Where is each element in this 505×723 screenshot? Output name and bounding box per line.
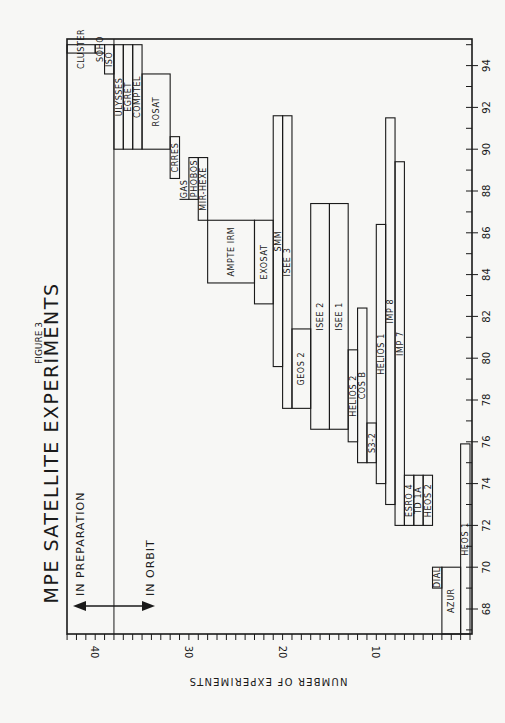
bar-label: AMPTE IRM	[227, 227, 236, 277]
bar-isee-2: ISEE 2	[311, 204, 330, 430]
bar-ulysses: ULYSSES	[114, 45, 124, 150]
bar-geos-2: GEOS 2	[292, 329, 311, 408]
bar-label: EGRET	[124, 82, 133, 112]
bar-imp-8: IMP 8	[386, 118, 396, 505]
bar-label: DIAL	[433, 567, 442, 588]
year-tick-label: 72	[481, 519, 492, 532]
bar-esro-4: ESRO 4	[404, 475, 414, 525]
bar-label: CLUSTER	[77, 29, 86, 69]
satellite-experiments-chart: FIGURE 3 MPE SATELLITE EXPERIMENTS HEOS …	[0, 0, 505, 723]
bar-rosat: ROSAT	[142, 74, 170, 149]
bar-label: GEOS 2	[297, 352, 306, 386]
bar-iso: ISO	[105, 45, 115, 74]
bar-ampte-irm: AMPTE IRM	[208, 220, 255, 283]
count-tick-label: 30	[183, 646, 194, 659]
bar-label: SMM	[274, 231, 283, 252]
bar-label: HELIOS 2	[349, 375, 358, 417]
bar-egret: EGRET	[123, 45, 133, 150]
count-tick-label: 20	[277, 646, 288, 659]
year-tick-label: 76	[481, 435, 492, 448]
plot-frame	[67, 39, 472, 634]
bar-label: ISEE 2	[316, 302, 325, 331]
arrow-left-icon	[73, 601, 86, 611]
bar-td-1a: TD 1A	[414, 475, 424, 525]
bar-helios-2: HELIOS 2	[348, 350, 358, 442]
year-tick-label: 90	[481, 143, 492, 156]
bar-label: HELIOS 1	[377, 333, 386, 375]
count-tick-label: 10	[370, 646, 381, 659]
year-tick-label: 74	[481, 477, 492, 490]
bar-label: COMPTEL	[133, 76, 142, 118]
bar-label: ESRO 4	[405, 484, 414, 517]
bar-label: ISEE 3	[283, 248, 292, 277]
year-tick-label: 82	[481, 310, 492, 323]
bar-comptel: COMPTEL	[133, 45, 143, 150]
count-axis-title: NUMBER OF EXPERIMENTS	[188, 676, 347, 687]
year-tick-label: 78	[481, 394, 492, 407]
bar-phobos: PHOBOS	[189, 158, 199, 200]
bar-label: TD 1A	[414, 487, 423, 515]
year-tick-label: 70	[481, 561, 492, 574]
count-tick-label: 40	[89, 646, 100, 659]
year-tick-label: 94	[481, 59, 492, 72]
figure-title-group: FIGURE 3 MPE SATELLITE EXPERIMENTS	[34, 283, 62, 604]
bar-label: CRRES	[171, 143, 180, 173]
year-tick-label: 80	[481, 352, 492, 365]
arrow-right-icon	[142, 601, 155, 611]
bar-label: GAS	[180, 180, 189, 199]
bar-label: SOHO	[96, 36, 105, 62]
bar-label: ISO	[105, 52, 114, 68]
bar-label: EXOSAT	[260, 245, 269, 280]
bar-dial: DIAL	[433, 567, 443, 588]
bar-s3-2: S3-2	[367, 423, 377, 463]
bar-label: IMP 8	[386, 299, 395, 324]
bar-label: AZUR	[447, 588, 456, 613]
experiment-bars: HEOS 1AZURDIALHEOS 2TD 1AESRO 4IMP 7IMP …	[67, 29, 470, 634]
year-tick-label: 86	[481, 226, 492, 239]
bar-cos-b: COS B	[358, 308, 368, 463]
year-tick-label: 92	[481, 101, 492, 114]
bar-heos-2: HEOS 2	[423, 475, 433, 525]
bar-exosat: EXOSAT	[254, 220, 273, 304]
bar-label: HEOS 2	[424, 483, 433, 517]
bar-label: ROSAT	[152, 97, 161, 127]
year-tick-label: 68	[481, 603, 492, 616]
bar-imp-7: IMP 7	[395, 162, 405, 526]
bar-label: ISEE 1	[335, 302, 344, 331]
bar-label: S3-2	[368, 433, 377, 454]
bar-azur: AZUR	[442, 567, 461, 634]
bar-soho: SOHO	[95, 36, 105, 62]
bar-cluster: CLUSTER	[67, 29, 95, 69]
bar-label: PHOBOS	[190, 160, 199, 197]
bar-helios-1: HELIOS 1	[376, 224, 386, 483]
year-tick-label: 84	[481, 268, 492, 281]
bar-isee-3: ISEE 3	[283, 116, 293, 409]
chart-title: MPE SATELLITE EXPERIMENTS	[40, 283, 62, 604]
year-tick-label: 88	[481, 185, 492, 198]
bar-gas: GAS	[180, 180, 190, 200]
bar-heos-1: HEOS 1	[461, 444, 471, 634]
bar-smm: SMM	[273, 116, 283, 367]
bar-label: COS B	[358, 371, 367, 399]
bar-crres: CRRES	[170, 137, 180, 179]
bar-isee-1: ISEE 1	[329, 204, 348, 430]
bar-label: HEOS 1	[461, 522, 470, 556]
bar-label: MIR-HEXE	[199, 167, 208, 211]
bar-mir-hexe: MIR-HEXE	[198, 158, 208, 221]
in-preparation-label: IN PREPARATION	[74, 492, 87, 596]
bar-label: IMP 7	[396, 331, 405, 356]
status-divider: IN PREPARATION IN ORBIT	[73, 39, 157, 634]
bar-label: ULYSSES	[115, 78, 124, 117]
count-axis: 10203040	[67, 634, 470, 658]
in-orbit-label: IN ORBIT	[144, 539, 157, 596]
